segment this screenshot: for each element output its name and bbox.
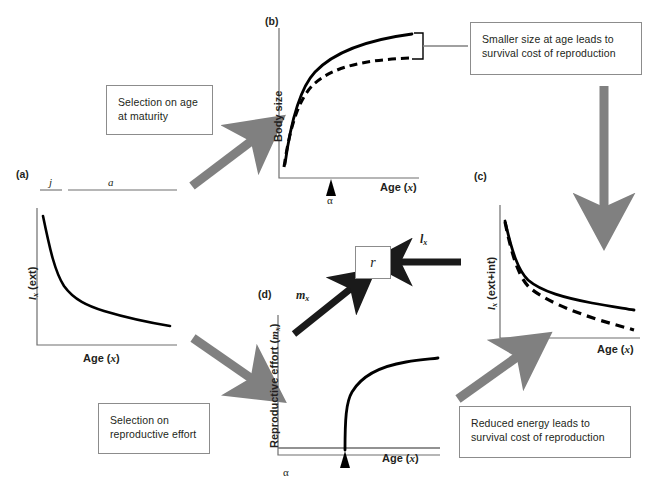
panel-c-y-axis-sub: x [490, 303, 499, 307]
arrow-a-to-d [193, 338, 258, 383]
panel-a-x-axis-text: Age ( [83, 352, 111, 364]
panel-d-y-axis-text: Reproductive effort ( [268, 340, 280, 448]
panel-b-x-axis-label: Age (x) [380, 181, 417, 193]
panel-b-tag: (b) [265, 15, 278, 27]
panel-a-curve-solid [43, 216, 170, 326]
panel-b-alpha-label: α [327, 194, 333, 206]
figure-canvas: (a) (b) (c) (d) Age (x) lx (ext) j a Age… [0, 0, 650, 495]
panel-d-alpha-label: α [283, 466, 289, 478]
panel-c-y-axis-label: lx (ext+int) [485, 257, 497, 310]
panel-d-x-axis-label: Age (x) [382, 452, 419, 464]
panel-c-y-axis-var: l [485, 307, 497, 310]
panel-a-adult-label: a [108, 176, 114, 188]
lx-arrow-label: lx [420, 232, 427, 247]
arrow-a-to-b [192, 136, 258, 186]
selection-age-maturity-box: Selection on age at maturity [106, 85, 213, 135]
panel-b-difference-bracket [412, 33, 423, 59]
panel-d-x-axis-close: ) [415, 452, 419, 464]
panel-b-curve-dashed [284, 58, 409, 167]
panel-d-tag: (d) [258, 288, 271, 300]
lx-arrow-sub: x [423, 238, 427, 247]
fitness-r-box: r [355, 246, 391, 279]
panel-a-juvenile-label: j [49, 176, 52, 188]
panel-a-y-axis-rest: (ext) [26, 267, 38, 293]
arrow-reduced-energy-to-panel-c [458, 352, 524, 399]
panel-d-x-axis-text: Age ( [382, 452, 410, 464]
mx-arrow-sub: x [305, 294, 309, 303]
panel-c-x-axis-label: Age (x) [597, 343, 634, 355]
panel-c-tag: (c) [474, 170, 487, 182]
panel-d-curve-solid [345, 358, 438, 450]
panel-d-alpha-marker [340, 451, 350, 468]
panel-c-x-axis-text: Age ( [597, 343, 625, 355]
selection-reproductive-effort-box: Selection on reproductive effort [98, 403, 210, 454]
panel-d-y-axis-sub: x [273, 327, 282, 331]
panel-c-x-axis-close: ) [630, 343, 634, 355]
reduced-energy-cost-box: Reduced energy leads to survival cost of… [459, 406, 631, 458]
panel-d-axes [278, 315, 440, 455]
panel-d-y-axis-var: m [268, 331, 280, 340]
panel-b-y-axis-label: Body size [272, 91, 284, 142]
mx-arrow-var: m [296, 288, 305, 302]
panel-a-x-axis-close: ) [116, 352, 120, 364]
panel-d-y-axis-label: Reproductive effort (mx) [268, 324, 280, 448]
panel-a-y-axis-sub: x [31, 293, 40, 297]
panel-b-x-axis-close: ) [413, 181, 417, 193]
panel-a-y-axis-var: l [26, 297, 38, 300]
smaller-size-cost-box: Smaller size at age leads to survival co… [470, 22, 642, 75]
panel-b-x-axis-text: Age ( [380, 181, 408, 193]
panel-a-y-axis-label: lx (ext) [26, 267, 38, 300]
panel-c-y-axis-rest: (ext+int) [485, 257, 497, 303]
mx-arrow-label: mx [296, 288, 309, 303]
panel-a-tag: (a) [16, 168, 29, 180]
panel-c-curve-solid [505, 221, 634, 310]
panel-a-x-axis-label: Age (x) [83, 352, 120, 364]
